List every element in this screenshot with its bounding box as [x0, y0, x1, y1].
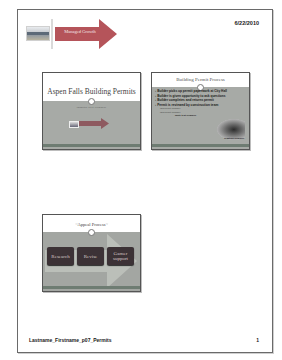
header-arrow-banner: Managed Growth: [51, 19, 117, 49]
slide-2-title: Building Permit Process: [152, 77, 249, 82]
slide-3-title: ~Appeal Process~: [43, 222, 140, 227]
logo-strip: [27, 32, 49, 35]
slide-thumbnail-3[interactable]: ~Appeal Process~ Research Revise Garner …: [42, 214, 141, 292]
arrow-shape-icon: [51, 19, 117, 49]
slide-2-note: [note text illegible]: [155, 114, 227, 118]
ring-icon: [88, 98, 95, 105]
slide-thumbnail-2[interactable]: Building Permit Process Builder picks up…: [151, 72, 250, 150]
slide-1-subtitle: [subtitle text illegible]: [43, 106, 140, 109]
slide-2-bullet-list: Builder picks up permit paperwork at Cit…: [155, 89, 227, 118]
slide-thumbnail-1[interactable]: Aspen Falls Building Permits [subtitle t…: [42, 72, 141, 150]
handout-page: Managed Growth 6/22/2010 Aspen Falls Bui…: [17, 9, 273, 353]
slide-1-arrow-icon: [79, 118, 109, 129]
print-date: 6/22/2010: [235, 20, 259, 26]
footer-filename: Lastname_Firstname_p07_Permits: [29, 337, 112, 343]
slide-1-title: Aspen Falls Building Permits: [43, 87, 140, 96]
slide-1-logo-image: [69, 121, 79, 128]
step-box-revise: Revise: [77, 247, 104, 265]
slide-2-bottom-bar: [152, 144, 249, 147]
header-arrow-label: Managed Growth: [59, 29, 101, 34]
slide-1-bottom-bar: [43, 144, 140, 147]
bullet-item: Builder picks up permit paperwork at Cit…: [155, 89, 227, 94]
page-number: 1: [256, 337, 259, 343]
step-box-research: Research: [47, 247, 74, 265]
slide-2-caption: [caption illegible]: [224, 137, 244, 140]
header-logo-image: [26, 26, 50, 41]
step-box-garner-support: Garner support: [107, 247, 134, 265]
slide-3-bottom-bar: [43, 286, 140, 289]
